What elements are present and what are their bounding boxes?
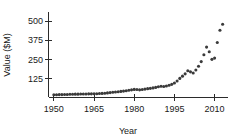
data-point — [216, 41, 219, 44]
x-tick-label: 1965 — [84, 104, 104, 114]
x-tick-label: 1995 — [164, 104, 184, 114]
data-point — [79, 92, 82, 95]
chart-container: 125250375500 Value ($M) 1950196519801995… — [0, 0, 233, 140]
data-point — [58, 93, 61, 96]
data-point — [74, 93, 77, 96]
x-axis: 19501965198019952010 Year — [44, 94, 228, 136]
data-point — [141, 88, 144, 91]
data-point — [205, 46, 208, 49]
data-point — [66, 93, 69, 96]
data-point — [162, 85, 165, 88]
data-point — [92, 92, 95, 95]
data-point — [103, 92, 106, 95]
data-point — [52, 93, 55, 96]
data-point — [213, 57, 216, 60]
data-point — [130, 88, 133, 91]
data-point — [60, 93, 63, 96]
data-point — [84, 92, 87, 95]
data-point — [202, 53, 205, 56]
data-point — [117, 90, 120, 93]
data-point — [114, 90, 117, 93]
y-tick-label: 500 — [28, 16, 43, 26]
data-point — [173, 81, 176, 84]
x-tick-label: 2010 — [205, 104, 225, 114]
data-point — [176, 79, 179, 82]
data-point — [200, 60, 203, 63]
data-point — [71, 93, 74, 96]
data-point — [168, 84, 171, 87]
data-point — [197, 65, 200, 68]
data-point — [184, 72, 187, 75]
y-tick-label: 125 — [28, 74, 43, 84]
data-point — [194, 68, 197, 71]
data-point — [119, 90, 122, 93]
data-point — [192, 72, 195, 75]
data-point — [122, 90, 125, 93]
data-point — [210, 58, 213, 61]
x-axis-title: Year — [119, 126, 137, 136]
data-point — [178, 77, 181, 80]
data-point — [138, 88, 141, 91]
data-points — [52, 23, 224, 97]
data-point — [218, 29, 221, 32]
data-point — [186, 69, 189, 72]
data-point — [189, 70, 192, 73]
y-axis: 125250375500 Value ($M) — [2, 12, 52, 97]
data-point — [146, 87, 149, 90]
y-tick-label: 250 — [28, 55, 43, 65]
data-point — [87, 92, 90, 95]
data-point — [125, 89, 128, 92]
x-tick-label: 1950 — [44, 104, 64, 114]
data-point — [143, 88, 146, 91]
data-point — [90, 92, 93, 95]
data-point — [159, 85, 162, 88]
data-point — [181, 75, 184, 78]
data-point — [55, 93, 58, 96]
data-point — [133, 88, 136, 91]
data-point — [101, 92, 104, 95]
data-point — [151, 86, 154, 89]
data-point — [68, 93, 71, 96]
data-point — [170, 83, 173, 86]
data-point — [98, 92, 101, 95]
y-tick-label: 375 — [28, 35, 43, 45]
data-point — [109, 91, 112, 94]
scatter-plot: 125250375500 Value ($M) 1950196519801995… — [0, 0, 233, 140]
data-point — [135, 88, 138, 91]
data-point — [154, 86, 157, 89]
data-point — [106, 91, 109, 94]
x-tick-label: 1980 — [124, 104, 144, 114]
data-point — [221, 23, 224, 26]
data-point — [208, 50, 211, 53]
data-point — [63, 93, 66, 96]
data-point — [82, 92, 85, 95]
data-point — [157, 85, 160, 88]
data-point — [127, 89, 130, 92]
data-point — [165, 85, 168, 88]
data-point — [95, 92, 98, 95]
data-point — [76, 93, 79, 96]
y-axis-title: Value ($M) — [2, 33, 12, 76]
data-point — [111, 91, 114, 94]
data-point — [149, 87, 152, 90]
